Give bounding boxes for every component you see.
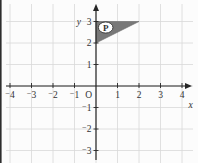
x-tick-label: 1	[115, 90, 120, 100]
y-tick-label: ⁻1	[82, 103, 92, 113]
x-tick-label: 4	[180, 90, 185, 100]
x-tick-label: 3	[158, 90, 163, 100]
x-tick-label: ⁻1	[70, 90, 80, 100]
x-axis-label: x	[187, 100, 193, 110]
y-tick-label: 1	[87, 60, 92, 70]
y-tick-label: ⁻3	[82, 146, 92, 156]
x-tick-label: ⁻3	[27, 90, 37, 100]
shape-label: P	[103, 23, 109, 33]
page-edge	[0, 0, 2, 163]
y-tick-label: 3	[87, 17, 92, 27]
y-tick-label: 2	[87, 38, 92, 48]
coordinate-grid: ⁻4⁻3⁻2⁻11234321⁻1⁻2⁻3OxyP	[0, 0, 198, 163]
y-tick-label: ⁻2	[82, 124, 92, 134]
x-tick-label: 2	[137, 90, 142, 100]
x-tick-label: ⁻4	[5, 90, 15, 100]
x-tick-label: ⁻2	[48, 90, 58, 100]
figure-coordinate-plane: ⁻4⁻3⁻2⁻11234321⁻1⁻2⁻3OxyP	[0, 0, 198, 163]
y-axis-label: y	[76, 17, 82, 27]
origin-label: O	[85, 90, 92, 100]
